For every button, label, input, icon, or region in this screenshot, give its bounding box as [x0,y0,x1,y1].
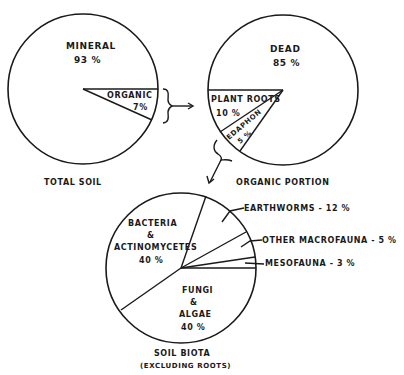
pie-soil-biota: BACTERIA & ACTINOMYCETES 40 % FUNGI & AL… [106,193,397,370]
slice-label-fungi: FUNGI [182,286,213,295]
slice-label-organic: ORGANIC [107,91,152,100]
brace-arrow-edaphon [207,140,232,183]
brace-arrow-organic [163,89,193,123]
caption-organic-portion: ORGANIC PORTION [236,178,329,187]
slice-value-bacteria: 40 % [139,256,163,265]
slice-label-algae: ALGAE [179,310,212,319]
slice-label-bacteria-amp: & [147,231,155,240]
slice-value-plant-roots: 10 % [216,109,240,118]
arrow-line [210,160,221,182]
slice-label-plant-roots: PLANT ROOTS [211,95,281,104]
slice-value-fungi: 40 % [181,323,205,332]
slice-value-dead: 85 % [273,58,300,68]
caption-total-soil: TOTAL SOIL [44,178,102,187]
slice-label-fungi-amp: & [190,298,198,307]
caption-soil-biota: SOIL BIOTA [154,349,211,358]
slice-label-other-macrofauna: OTHER MACROFAUNA - 5 % [262,236,397,245]
leader-mesofauna [245,263,264,264]
slice-label-mesofauna: MESOFAUNA - 3 % [265,259,355,268]
slice-value-mineral: 93 % [74,55,101,65]
pie-total-soil: MINERAL 93 % ORGANIC 7% TOTAL SOIL [8,14,158,187]
slice-label-bacteria: BACTERIA [128,219,177,228]
slice-label-actinomycetes: ACTINOMYCETES [114,243,197,252]
soil-composition-diagram: MINERAL 93 % ORGANIC 7% TOTAL SOIL DEAD … [0,0,404,375]
brace-icon [163,89,172,123]
slice-value-organic: 7% [133,103,148,112]
slice-label-dead: DEAD [270,44,300,54]
slice-label-earthworms: EARTHWORMS - 12 % [244,204,350,213]
slice-label-mineral: MINERAL [66,41,116,51]
subcaption-soil-biota: (EXCLUDING ROOTS) [140,362,231,370]
